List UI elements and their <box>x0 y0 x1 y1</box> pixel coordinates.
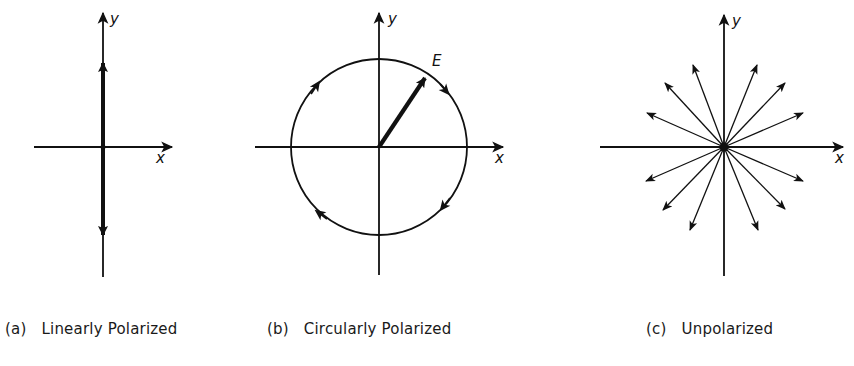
y-axis-label-a: y <box>109 10 120 28</box>
panel-b-circular: E <box>255 13 503 275</box>
field-vector <box>724 147 785 209</box>
field-vector <box>724 83 785 147</box>
y-axis-label-b: y <box>387 10 398 28</box>
y-axis-label-c: y <box>731 12 742 30</box>
polarization-diagrams: E y x y x <box>0 0 854 366</box>
caption-a: (a) Linearly Polarized <box>5 320 178 338</box>
x-axis-label-a: x <box>155 149 165 167</box>
caption-text: Circularly Polarized <box>304 320 452 338</box>
field-vector <box>663 147 724 210</box>
caption-b: (b) Circularly Polarized <box>267 320 451 338</box>
rotation-arrow-upper-right <box>440 84 446 91</box>
caption-tag: (c) <box>646 320 667 338</box>
e-field-vector <box>379 78 425 147</box>
x-axis-label-c: x <box>834 149 844 167</box>
caption-tag: (a) <box>5 320 27 338</box>
origin-dot <box>101 145 106 150</box>
field-vector <box>665 83 724 147</box>
caption-text: Linearly Polarized <box>41 320 177 338</box>
origin-dot <box>720 143 729 152</box>
polarization-figure: E y x y x <box>0 0 854 366</box>
rotation-arrow-lower-right <box>443 198 450 207</box>
panel-a-linear <box>34 13 172 277</box>
x-axis-label-b: x <box>494 149 504 167</box>
caption-tag: (b) <box>267 320 289 338</box>
caption-text: Unpolarized <box>682 320 774 338</box>
panel-c-unpolarized <box>600 15 843 276</box>
caption-c: (c) Unpolarized <box>646 320 773 338</box>
e-vector-label: E <box>432 52 442 70</box>
